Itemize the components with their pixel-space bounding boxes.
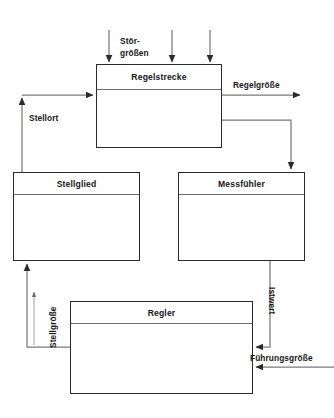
block-messfuehler-label: Messfühler xyxy=(218,179,265,189)
label-regelgroesse: Regelgröße xyxy=(233,80,280,90)
block-stellglied-body xyxy=(14,195,139,260)
block-regelstrecke[interactable]: Regelstrecke xyxy=(96,64,222,148)
label-stellgroesse: Stellgröße xyxy=(48,306,58,348)
label-stellort: Stellort xyxy=(29,113,58,123)
block-regelstrecke-body xyxy=(97,90,221,147)
control-loop-diagram: Regelstrecke Stellglied Messfühler Regle… xyxy=(0,0,334,418)
label-istwert: Istwert xyxy=(267,287,277,314)
block-messfuehler[interactable]: Messfühler xyxy=(178,172,305,261)
block-stellglied-label: Stellglied xyxy=(57,179,97,189)
block-regelstrecke-label: Regelstrecke xyxy=(131,72,186,82)
block-stellglied[interactable]: Stellglied xyxy=(13,172,140,261)
block-stellglied-header: Stellglied xyxy=(14,173,139,195)
block-regler[interactable]: Regler xyxy=(70,301,253,394)
label-stoergroessen: Stör- größen xyxy=(120,36,149,59)
block-regler-label: Regler xyxy=(148,308,176,318)
block-regler-header: Regler xyxy=(71,302,252,324)
connector-regelgroesse-branch-to-messfuehler xyxy=(222,120,291,169)
block-messfuehler-header: Messfühler xyxy=(179,173,304,195)
block-messfuehler-body xyxy=(179,195,304,260)
block-regelstrecke-header: Regelstrecke xyxy=(97,65,221,90)
label-fuehrungsgroesse: Führungsgröße xyxy=(250,353,313,363)
block-regler-body xyxy=(71,324,252,393)
